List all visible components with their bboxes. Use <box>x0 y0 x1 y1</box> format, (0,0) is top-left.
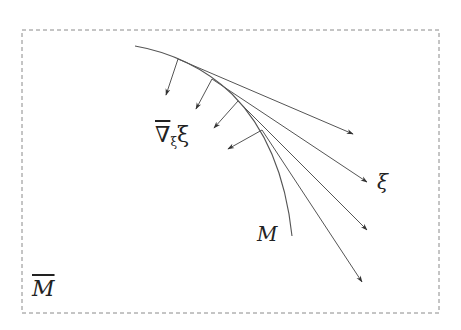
submanifold-label: M <box>257 222 277 246</box>
nabla-subscript: ξ <box>170 135 177 149</box>
ambient-manifold-label: M <box>32 276 55 301</box>
nabla-bar-symbol: ∇ <box>155 122 170 147</box>
normal-arrow <box>214 101 238 128</box>
normal-arrow <box>228 130 262 149</box>
normal-arrow <box>196 79 212 109</box>
vector-field-label: ξ <box>377 170 388 194</box>
nabla-argument: ξ <box>177 122 189 147</box>
tangent-vector-field <box>178 59 367 282</box>
normal-arrow <box>166 59 178 95</box>
covariant-derivative-label: ∇ξξ <box>155 122 189 149</box>
tangent-arrow <box>238 101 367 230</box>
tangent-arrow <box>262 130 362 282</box>
diagram-canvas <box>0 0 461 330</box>
tangent-arrow <box>178 59 353 134</box>
